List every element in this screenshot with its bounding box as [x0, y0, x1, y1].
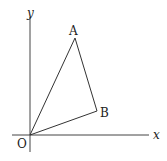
diagram-canvas: y x O A B: [0, 0, 167, 161]
point-b-label: B: [100, 106, 109, 120]
segment-oa: [30, 38, 75, 135]
segment-ab: [75, 38, 97, 111]
y-axis-label: y: [26, 6, 34, 20]
segment-ob: [30, 111, 97, 135]
x-axis-label: x: [153, 128, 160, 142]
origin-label: O: [17, 137, 27, 151]
point-a-label: A: [68, 24, 78, 38]
